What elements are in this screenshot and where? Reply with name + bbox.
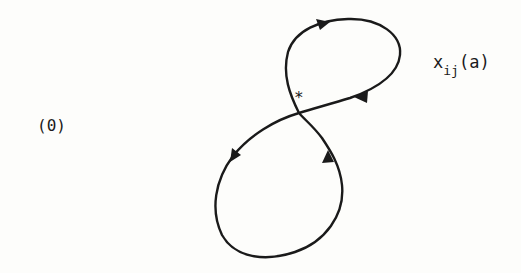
curve-label-base: x	[433, 52, 443, 72]
curve-label: xij(a)	[433, 52, 490, 72]
curve-label-subscript: ij	[443, 63, 459, 78]
curve-label-argument: (a)	[459, 52, 490, 72]
state-label: (0)	[37, 116, 66, 135]
crossing-marker: *	[294, 88, 304, 107]
bottom-loop-curve	[215, 113, 342, 257]
diagram-canvas: (0) * xij(a)	[0, 0, 521, 273]
figure-eight-svg	[0, 0, 521, 273]
